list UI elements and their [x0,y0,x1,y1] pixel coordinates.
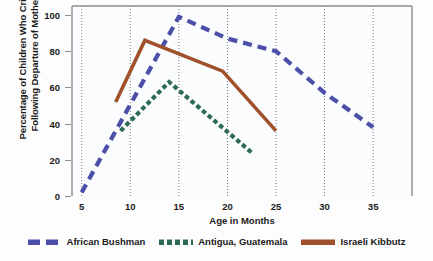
legend-label: Antigua, Guatemala [198,236,287,247]
x-axis-title: Age in Months [72,215,412,226]
x-axis-tick-label: 25 [264,201,288,212]
plot-background [72,6,412,196]
x-axis-tick-label: 15 [167,201,191,212]
legend-swatch-solid [301,239,335,245]
legend-item[interactable]: Israeli Kibbutz [301,236,405,247]
legend-label: African Bushman [67,236,146,247]
legend-item[interactable]: African Bushman [28,236,146,247]
x-axis-tick-label: 10 [118,201,142,212]
legend-swatch-dashed [28,239,62,245]
legend-item[interactable]: Antigua, Guatemala [159,236,287,247]
x-axis-tick-label: 20 [215,201,239,212]
legend-swatch-dotted [159,239,193,245]
x-axis-tick-label: 35 [361,201,385,212]
chart-legend: African BushmanAntigua, GuatemalaIsraeli… [0,236,433,247]
chart-figure: Percentage of Children Who Cried Followi… [0,0,433,261]
x-axis-tick-label: 5 [70,201,94,212]
legend-label: Israeli Kibbutz [340,236,405,247]
x-axis-tick-label: 30 [313,201,337,212]
